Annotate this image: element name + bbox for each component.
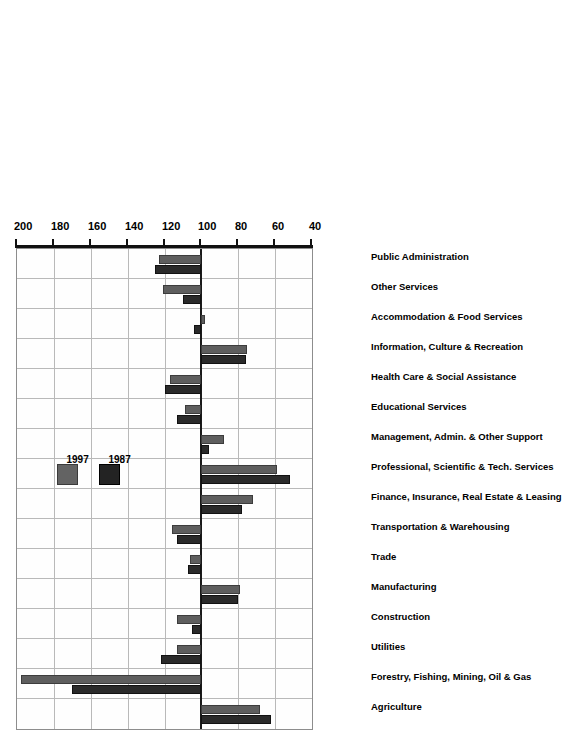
category-label-14: Other Services [371,280,438,294]
bar-1987-5 [188,565,201,574]
bar-1997-0 [201,705,260,714]
gridline-horizontal [54,249,55,729]
bar-1987-0 [201,715,271,724]
value-tick-160 [89,239,91,248]
bar-1987-9 [201,445,208,454]
gridline-horizontal [91,249,92,729]
bar-1987-13 [194,325,201,334]
value-tick-120 [163,239,165,248]
value-tick-label-140: 140 [125,220,143,232]
legend-label-1987: 1987 [109,454,131,465]
category-label-2: Utilities [371,640,405,654]
category-label-10: Educational Services [371,400,467,414]
bar-1987-14 [183,295,201,304]
category-label-13: Accommodation & Food Services [371,310,523,324]
bar-1997-10 [185,405,202,414]
bar-1987-6 [177,535,201,544]
category-label-3: Construction [371,610,430,624]
bar-1997-1 [21,675,202,684]
value-tick-100 [199,239,201,248]
bar-1987-10 [177,415,201,424]
bar-1997-7 [201,495,253,504]
category-label-11: Health Care & Social Assistance [371,370,516,384]
category-label-4: Manufacturing [371,580,436,594]
value-tick-180 [52,239,54,248]
bar-1997-12 [201,345,247,354]
legend-swatch-1987 [99,464,120,485]
bar-1987-4 [201,595,238,604]
bar-1987-11 [165,385,202,394]
value-tick-label-180: 180 [51,220,69,232]
value-tick-label-200: 200 [14,220,32,232]
value-tick-40 [310,239,312,248]
gridline-horizontal [275,249,276,729]
category-label-5: Trade [371,550,396,564]
bar-1987-8 [201,475,290,484]
category-axis-labels: AgricultureForestry, Fishing, Mining, Oi… [313,248,371,730]
category-label-15: Public Administration [371,250,469,264]
bar-1997-6 [172,525,202,534]
legend-swatch-1997 [57,464,78,485]
bar-1987-3 [192,625,201,634]
bar-1987-7 [201,505,242,514]
value-tick-label-160: 160 [88,220,106,232]
bar-1997-11 [170,375,201,384]
bar-1997-14 [163,285,202,294]
category-label-9: Management, Admin. & Other Support [371,430,543,444]
plot-area: 19871997 [16,248,313,730]
value-tick-200 [15,239,17,248]
bar-1997-13 [201,315,205,324]
category-label-1: Forestry, Fishing, Mining, Oil & Gas [371,670,531,684]
value-tick-label-40: 40 [309,220,321,232]
bar-1997-9 [201,435,223,444]
bar-1997-5 [190,555,201,564]
category-label-6: Transportation & Warehousing [371,520,509,534]
value-tick-label-100: 100 [198,220,216,232]
gridline-horizontal [128,249,129,729]
bar-1987-12 [201,355,245,364]
bar-1997-8 [201,465,277,474]
bar-1997-3 [177,615,201,624]
bar-1987-1 [72,685,201,694]
legend-label-1997: 1997 [66,454,88,465]
bar-1997-2 [177,645,201,654]
bar-1987-15 [155,265,201,274]
value-tick-label-80: 80 [235,220,247,232]
value-tick-140 [126,239,128,248]
bar-1997-15 [159,255,201,264]
category-label-7: Finance, Insurance, Real Estate & Leasin… [371,490,562,504]
value-tick-label-120: 120 [162,220,180,232]
category-label-0: Agriculture [371,700,422,714]
bar-1987-2 [161,655,202,664]
value-tick-60 [273,239,275,248]
gridline-horizontal [238,249,239,729]
value-tick-80 [236,239,238,248]
value-tick-label-60: 60 [272,220,284,232]
category-label-8: Professional, Scientific & Tech. Service… [371,460,554,474]
category-label-12: Information, Culture & Recreation [371,340,523,354]
bar-1997-4 [201,585,240,594]
value-axis-line [16,245,313,248]
